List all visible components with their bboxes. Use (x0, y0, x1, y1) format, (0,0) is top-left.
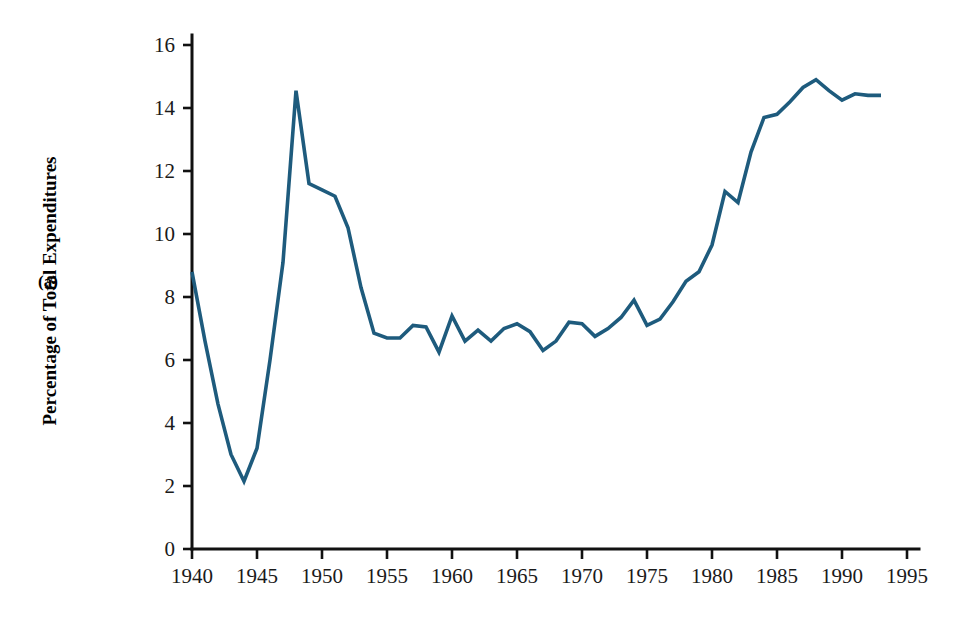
x-axis-tick-label: 1940 (171, 564, 213, 588)
y-axis-tick-label: 14 (154, 96, 176, 120)
y-axis-tick-label: 4 (165, 411, 176, 435)
y-axis-tick-label: 8 (165, 285, 176, 309)
y-axis-tick-label: 12 (154, 159, 175, 183)
line-chart-plot: 0246810121416 19401945195019551960196519… (0, 0, 972, 622)
x-axis-tick-label: 1975 (626, 564, 668, 588)
y-axis-tick-label: 10 (154, 222, 175, 246)
x-axis-tick-label: 1960 (431, 564, 473, 588)
x-axis-tick-label: 1985 (756, 564, 798, 588)
x-axis-tick-label: 1980 (691, 564, 733, 588)
x-axis-tick-label: 1990 (821, 564, 863, 588)
x-axis-tick-label: 1950 (301, 564, 343, 588)
y-axis-tick-label: 6 (165, 348, 176, 372)
x-axis-tick-label: 1970 (561, 564, 603, 588)
data-series-line (192, 80, 881, 482)
figure-container: (a) Percentage of Total Expenditures 024… (0, 0, 972, 622)
y-axis-tick-label: 2 (165, 474, 176, 498)
x-axis-tick-label: 1995 (886, 564, 928, 588)
y-axis-tick-label: 0 (165, 537, 176, 561)
y-axis-tick-group: 0246810121416 (154, 33, 192, 561)
x-axis-tick-label: 1965 (496, 564, 538, 588)
x-axis-tick-label: 1955 (366, 564, 408, 588)
x-axis-tick-group: 1940194519501955196019651970197519801985… (171, 549, 928, 588)
x-axis-tick-label: 1945 (236, 564, 278, 588)
y-axis-tick-label: 16 (154, 33, 175, 57)
